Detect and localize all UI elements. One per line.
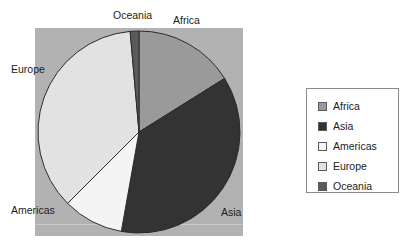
slice-label-africa: Africa [173,14,200,26]
legend-swatch-icon-asia [318,122,327,131]
legend-label: Europe [333,160,367,172]
legend-swatch-icon-oceania [318,182,327,191]
legend-label: Americas [333,140,377,152]
slice-label-asia: Asia [221,206,241,218]
legend-label: Asia [333,120,353,132]
slice-label-oceania: Oceania [113,9,152,21]
legend-item-oceania[interactable]: Oceania [318,177,396,195]
legend-item-asia[interactable]: Asia [318,117,396,135]
legend-item-europe[interactable]: Europe [318,157,396,175]
legend-label: Africa [333,100,360,112]
legend-swatch-icon-americas [318,142,327,151]
pie-svg [35,28,243,236]
legend-item-africa[interactable]: Africa [318,97,396,115]
slice-label-americas: Americas [11,204,55,216]
pie-chart-figure: Oceania Africa Europe Americas Asia Afri… [0,0,407,251]
legend-item-americas[interactable]: Americas [318,137,396,155]
chart-legend: AfricaAsiaAmericasEuropeOceania [306,88,399,193]
legend-swatch-icon-europe [318,162,327,171]
slice-label-europe: Europe [11,63,45,75]
legend-item-list: AfricaAsiaAmericasEuropeOceania [318,97,396,197]
legend-swatch-icon-africa [318,102,327,111]
legend-label: Oceania [333,180,372,192]
pie-slice-group [38,31,240,233]
